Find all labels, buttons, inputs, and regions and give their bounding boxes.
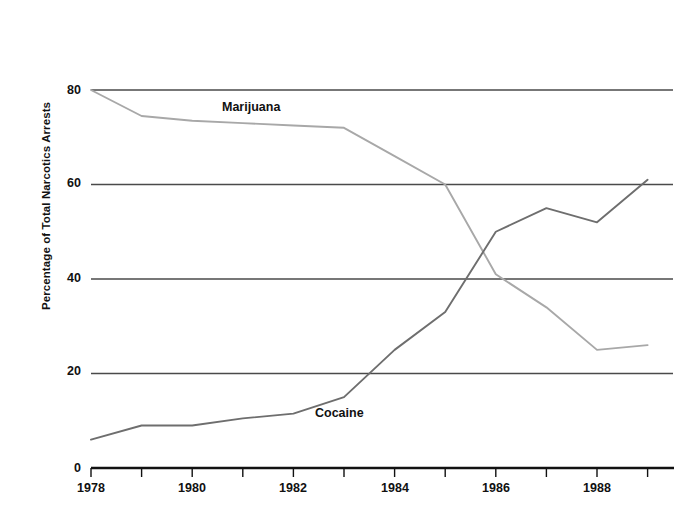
series-paths-group — [91, 90, 648, 440]
gridlines-group — [91, 90, 673, 374]
series-line-marijuana — [91, 90, 648, 350]
x-axis-ticks-group — [91, 468, 648, 477]
series-line-cocaine — [91, 180, 648, 440]
chart-container: Percentage of Total Narcotics Arrests 80… — [0, 0, 689, 521]
plot-area — [0, 0, 689, 521]
